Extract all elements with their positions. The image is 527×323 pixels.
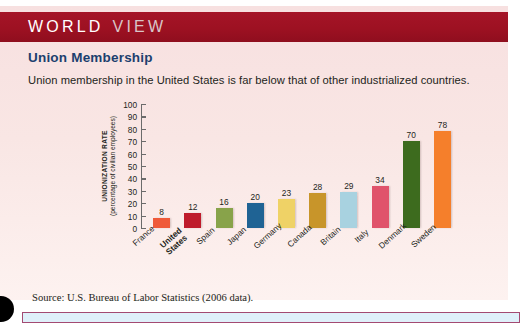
bar xyxy=(216,208,233,228)
bar xyxy=(372,186,389,228)
y-tick-label: 60 xyxy=(115,149,137,159)
x-category-cell: United States xyxy=(155,230,186,276)
bar xyxy=(434,131,451,228)
bar-group: 8 xyxy=(146,104,177,228)
bar-group: 20 xyxy=(240,104,271,228)
x-category-cell: Britain xyxy=(311,230,342,276)
x-category-cell: Canada xyxy=(280,230,311,276)
y-tick-label: 80 xyxy=(115,124,137,134)
bar-group: 12 xyxy=(177,104,208,228)
x-category-cell: Japan xyxy=(218,230,249,276)
source-note: Source: U.S. Bureau of Labor Statistics … xyxy=(32,292,253,303)
bar-group: 28 xyxy=(302,104,333,228)
y-tick-label: 90 xyxy=(115,112,137,122)
y-tick-label: 40 xyxy=(115,174,137,184)
bottom-blue-strip xyxy=(22,312,520,323)
x-category-cell: Denmark xyxy=(374,230,405,276)
page-subtitle: Union membership in the United States is… xyxy=(28,74,470,86)
x-category-cell: France xyxy=(124,230,155,276)
banner-title: WORLDVIEW xyxy=(28,18,166,36)
bar xyxy=(403,141,420,228)
bar-group: 29 xyxy=(333,104,364,228)
bar xyxy=(278,199,295,228)
y-tick-label: 30 xyxy=(115,186,137,196)
y-tick-label: 70 xyxy=(115,137,137,147)
x-category-label: Spain xyxy=(194,225,216,247)
y-tick-label: 50 xyxy=(115,162,137,172)
bar-group: 34 xyxy=(364,104,395,228)
x-category-cell: Spain xyxy=(186,230,217,276)
banner-word-view: VIEW xyxy=(113,18,167,35)
bar-group: 70 xyxy=(396,104,427,228)
y-axis-title-main: UNIONIZATION RATE xyxy=(101,130,108,202)
bar xyxy=(153,218,170,228)
bar-value-label: 34 xyxy=(375,175,384,185)
bar-value-label: 28 xyxy=(313,182,322,192)
x-category-cell: Germany xyxy=(249,230,280,276)
bar-value-label: 8 xyxy=(159,207,164,217)
bar-value-label: 70 xyxy=(407,130,416,140)
x-axis-category-labels: FranceUnited StatesSpainJapanGermanyCana… xyxy=(124,230,436,276)
x-category-label: Italy xyxy=(352,227,370,245)
bar-group: 23 xyxy=(271,104,302,228)
bar-value-label: 23 xyxy=(282,188,291,198)
page-title: Union Membership xyxy=(28,50,153,65)
bar-value-label: 16 xyxy=(219,197,228,207)
bar-group: 78 xyxy=(427,104,458,228)
bar xyxy=(340,192,357,228)
x-category-cell: Italy xyxy=(342,230,373,276)
bar-value-label: 29 xyxy=(344,181,353,191)
y-tick-label: 100 xyxy=(115,100,137,110)
bar-group: 16 xyxy=(208,104,239,228)
y-tick-label: 10 xyxy=(115,211,137,221)
banner-word-world: WORLD xyxy=(28,18,104,35)
bar-value-label: 20 xyxy=(251,192,260,202)
bar-series: 8121620232829347078 xyxy=(146,104,458,228)
x-category-cell: Sweden xyxy=(405,230,436,276)
unionization-bar-chart: UNIONIZATION RATE (percentage of civilia… xyxy=(100,104,460,274)
plot-area: 1009080706050403020100 81216202328293470… xyxy=(122,104,458,228)
bar xyxy=(247,203,264,228)
bar-value-label: 12 xyxy=(188,202,197,212)
bar xyxy=(309,193,326,228)
y-tick-label: 20 xyxy=(115,199,137,209)
world-view-banner: WORLDVIEW xyxy=(0,12,508,42)
bar-value-label: 78 xyxy=(438,120,447,130)
